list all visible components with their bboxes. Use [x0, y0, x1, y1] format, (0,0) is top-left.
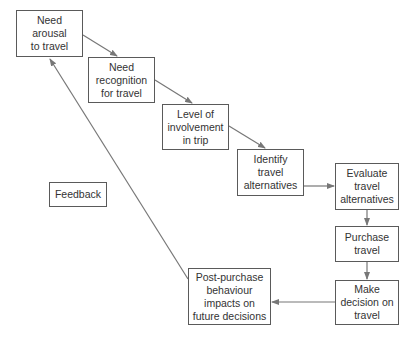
node-label: Need recognition for travel [96, 61, 147, 100]
node-identify-alternatives: Identify travel alternatives [237, 149, 304, 196]
node-label: Identify travel alternatives [244, 153, 298, 192]
node-label: Need arousal to travel [31, 14, 68, 53]
node-evaluate-alternatives: Evaluate travel alternatives [335, 163, 399, 210]
arrow-recognition-to-involvement [155, 80, 192, 103]
node-label: Make decision on travel [340, 283, 393, 322]
node-need-recognition: Need recognition for travel [88, 57, 155, 103]
node-label: Purchase travel [345, 231, 389, 257]
node-level-of-involvement: Level of involvement in trip [162, 104, 229, 150]
node-label: Post-purchase behaviour impacts on futur… [193, 271, 267, 323]
travel-decision-flowchart: Need arousal to travel Need recognition … [0, 0, 412, 340]
arrow-involvement-to-identify [229, 126, 265, 148]
node-purchase-travel: Purchase travel [335, 226, 399, 262]
node-make-decision: Make decision on travel [335, 280, 399, 325]
node-label: Level of involvement in trip [167, 108, 223, 147]
node-need-arousal: Need arousal to travel [16, 10, 83, 57]
feedback-label: Feedback [55, 188, 101, 201]
node-post-purchase-behaviour: Post-purchase behaviour impacts on futur… [188, 268, 271, 325]
feedback-label-box: Feedback [49, 182, 107, 207]
arrow-arousal-to-recognition [83, 35, 117, 56]
node-label: Evaluate travel alternatives [340, 167, 394, 206]
